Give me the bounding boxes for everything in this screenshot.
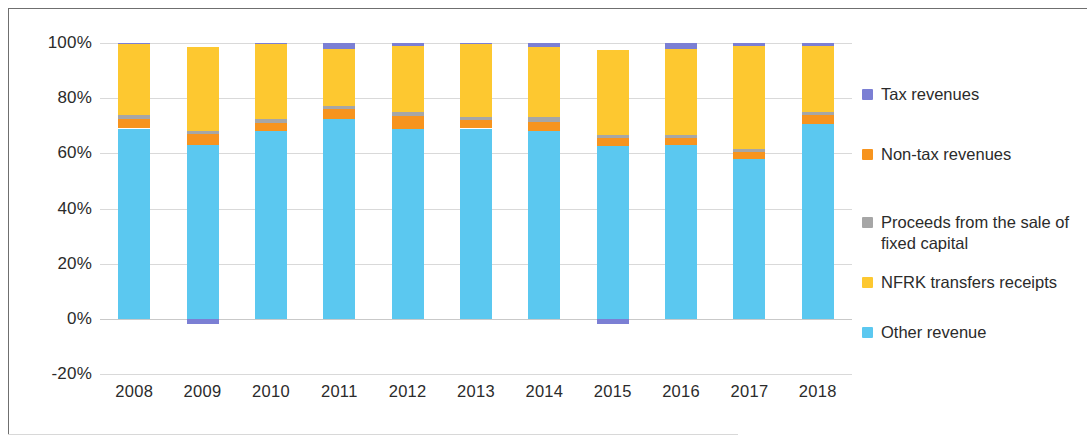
legend-item-label: Proceeds from the sale of fixed capital: [881, 212, 1069, 254]
bar-group[interactable]: [733, 43, 765, 374]
bar-segment[interactable]: [597, 138, 629, 146]
bar-segment[interactable]: [665, 135, 697, 138]
bar-segment[interactable]: [597, 319, 629, 325]
plot-area: [100, 43, 852, 374]
bar-segment[interactable]: [733, 43, 765, 46]
x-axis-tick-label: 2016: [662, 382, 700, 401]
legend-swatch-icon: [862, 89, 873, 100]
bar-segment[interactable]: [665, 49, 697, 136]
chart-frame-bottom-rule: [8, 434, 738, 435]
bar-segment[interactable]: [460, 43, 492, 44]
bar-segment[interactable]: [665, 43, 697, 49]
legend-swatch-icon: [862, 149, 873, 160]
bar-segment[interactable]: [802, 124, 834, 318]
legend-item[interactable]: NFRK transfers receipts: [862, 272, 1057, 293]
bar-segment[interactable]: [118, 115, 150, 119]
x-axis-tick-label: 2013: [457, 382, 495, 401]
bar-segment[interactable]: [187, 319, 219, 325]
x-axis-tick-label: 2009: [184, 382, 222, 401]
bar-group[interactable]: [528, 43, 560, 374]
bar-segment[interactable]: [187, 47, 219, 131]
y-axis-tick-label: 20%: [14, 254, 92, 274]
bar-group[interactable]: [597, 43, 629, 374]
bar-segment[interactable]: [392, 112, 424, 116]
bar-segment[interactable]: [118, 44, 150, 114]
x-axis-tick-label: 2015: [594, 382, 632, 401]
legend-item-label: Tax revenues: [881, 84, 979, 105]
bar-segment[interactable]: [392, 116, 424, 128]
bar-segment[interactable]: [187, 134, 219, 145]
bar-segment[interactable]: [392, 129, 424, 319]
bar-segment[interactable]: [802, 43, 834, 46]
bar-group[interactable]: [118, 43, 150, 374]
bar-segment[interactable]: [118, 119, 150, 129]
bar-segment[interactable]: [323, 106, 355, 109]
bar-segment[interactable]: [392, 46, 424, 112]
bar-segment[interactable]: [460, 44, 492, 117]
legend-item[interactable]: Proceeds from the sale of fixed capital: [862, 212, 1069, 254]
bar-segment[interactable]: [255, 44, 287, 118]
bar-segment[interactable]: [255, 131, 287, 319]
bar-segment[interactable]: [733, 149, 765, 152]
legend-item[interactable]: Tax revenues: [862, 84, 979, 105]
bar-segment[interactable]: [323, 49, 355, 107]
bar-segment[interactable]: [528, 131, 560, 319]
y-axis-tick-label: 80%: [14, 88, 92, 108]
bar-segment[interactable]: [802, 115, 834, 125]
legend-item[interactable]: Non-tax revenues: [862, 144, 1011, 165]
bar-segment[interactable]: [118, 129, 150, 319]
legend-item-label: Non-tax revenues: [881, 144, 1011, 165]
bar-segment[interactable]: [460, 120, 492, 128]
bar-segment[interactable]: [323, 109, 355, 119]
bar-segment[interactable]: [187, 131, 219, 134]
bar-segment[interactable]: [665, 138, 697, 145]
bar-group[interactable]: [187, 43, 219, 374]
bar-segment[interactable]: [528, 43, 560, 47]
y-axis-tick-label: 0%: [14, 309, 92, 329]
y-axis-tick-label: 40%: [14, 199, 92, 219]
bar-segment[interactable]: [597, 50, 629, 136]
bar-segment[interactable]: [597, 146, 629, 318]
y-axis-tick-label: 100%: [14, 33, 92, 53]
bar-group[interactable]: [802, 43, 834, 374]
bar-segment[interactable]: [187, 145, 219, 319]
bar-segment[interactable]: [255, 123, 287, 131]
bar-segment[interactable]: [323, 43, 355, 49]
y-axis: -20%0%20%40%60%80%100%: [8, 43, 92, 374]
bar-segment[interactable]: [802, 112, 834, 115]
bar-segment[interactable]: [665, 145, 697, 319]
x-axis-tick-label: 2017: [731, 382, 769, 401]
bar-segment[interactable]: [528, 47, 560, 117]
bar-segment[interactable]: [460, 129, 492, 319]
x-axis-tick-label: 2011: [321, 382, 358, 401]
legend-item-label: NFRK transfers receipts: [881, 272, 1057, 293]
y-axis-tick-label: -20%: [14, 364, 92, 384]
bar-group[interactable]: [392, 43, 424, 374]
bar-segment[interactable]: [255, 43, 287, 44]
legend-item[interactable]: Other revenue: [862, 322, 986, 343]
bar-segment[interactable]: [733, 159, 765, 319]
bar-group[interactable]: [460, 43, 492, 374]
bar-series-container: [100, 43, 852, 374]
legend-item-label: Other revenue: [881, 322, 986, 343]
bar-segment[interactable]: [392, 43, 424, 46]
legend-swatch-icon: [862, 277, 873, 288]
bar-segment[interactable]: [528, 122, 560, 132]
bar-group[interactable]: [255, 43, 287, 374]
bar-segment[interactable]: [597, 135, 629, 138]
bar-segment[interactable]: [118, 43, 150, 44]
bar-group[interactable]: [323, 43, 355, 374]
bar-segment[interactable]: [733, 46, 765, 149]
bar-segment[interactable]: [323, 119, 355, 319]
bar-group[interactable]: [665, 43, 697, 374]
legend-swatch-icon: [862, 327, 873, 338]
bar-segment[interactable]: [460, 117, 492, 120]
bar-segment[interactable]: [528, 117, 560, 121]
bar-segment[interactable]: [255, 119, 287, 123]
bar-segment[interactable]: [802, 46, 834, 112]
x-axis-tick-label: 2012: [389, 382, 427, 401]
y-axis-tick-label: 60%: [14, 143, 92, 163]
x-axis-tick-label: 2014: [525, 382, 563, 401]
x-axis-tick-label: 2010: [252, 382, 290, 401]
bar-segment[interactable]: [733, 152, 765, 159]
